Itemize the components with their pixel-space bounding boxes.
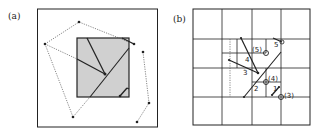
panel-b: (b)	[173, 9, 310, 125]
vertex-point	[148, 102, 151, 105]
endpoint	[257, 72, 260, 75]
dotted-edge-left	[45, 44, 73, 117]
vertex-point	[72, 116, 75, 119]
dotted-edge-inner	[45, 44, 77, 59]
marker-label-3: (3)	[284, 92, 294, 100]
vertex-point	[136, 121, 139, 124]
segment-label-2: 2	[254, 85, 258, 93]
vertex-point	[119, 95, 122, 98]
endpoint	[228, 59, 230, 61]
dotted-edge-bottom	[73, 97, 90, 117]
endpoint	[240, 37, 242, 39]
shaded-rectangle	[77, 38, 129, 97]
segment-label-5: 5	[274, 41, 278, 49]
panel-a: (a)	[8, 9, 158, 127]
marker-label-5: (5)	[252, 46, 262, 54]
panel-b-label: (b)	[173, 14, 186, 24]
grid	[193, 9, 310, 125]
panel-b-frame	[193, 9, 310, 125]
marker-label-4: (4)	[268, 75, 278, 83]
vertex-point	[133, 43, 136, 46]
vertex-point	[142, 51, 145, 54]
dotted-right-chain	[137, 52, 149, 122]
panel-a-label: (a)	[8, 11, 20, 21]
center-point	[104, 73, 107, 76]
figure: (a) (b)	[0, 0, 327, 139]
endpoint	[278, 86, 280, 88]
endpoint	[243, 96, 245, 98]
segment-label-3: 3	[243, 69, 247, 77]
segment-label-4: 4	[245, 56, 250, 64]
vertex-point	[78, 21, 81, 24]
segment-a6	[127, 88, 129, 89]
endpoint	[271, 94, 273, 96]
segment-label-1: 1	[273, 85, 277, 93]
vertex-point	[44, 43, 47, 46]
